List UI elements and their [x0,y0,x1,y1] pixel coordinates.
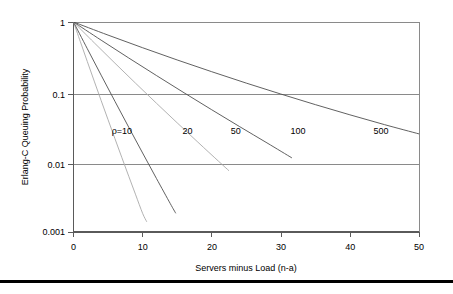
series-label-rho-10: ρ=10 [112,126,132,136]
series-label-100: 100 [291,126,306,136]
y-tick-marks [68,23,73,233]
y-axis-title: Erlang-C Queuing Probability [20,68,30,185]
series-label-20: 20 [183,126,193,136]
y-tick-label-0.1: 0.1 [52,90,65,100]
x-tick-label-0: 0 [71,242,76,252]
series-label-500: 500 [373,126,388,136]
x-axis-title: Servers minus Load (n-a) [195,263,297,273]
x-tick-label-30: 30 [276,242,286,252]
x-tick-marks [74,232,420,237]
chart-figure: 1 0.1 0.01 0.001 0 10 20 30 40 50 Server… [0,0,453,294]
y-tick-label-0.001: 0.001 [42,227,65,237]
bottom-horizontal-rule [0,280,453,283]
series-label-50: 50 [231,126,241,136]
x-tick-label-50: 50 [414,242,424,252]
x-tick-label-40: 40 [345,242,355,252]
x-tick-label-20: 20 [207,242,217,252]
y-tick-label-0.01: 0.01 [47,160,65,170]
x-tick-label-10: 10 [138,242,148,252]
erlang-c-queuing-probability-chart: 1 0.1 0.01 0.001 0 10 20 30 40 50 Server… [0,0,453,294]
y-tick-label-1: 1 [60,18,65,28]
